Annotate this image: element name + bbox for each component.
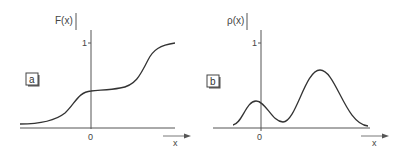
figure: F(x) 1 0 x a ρ(x) 1 0 x b [0, 0, 406, 150]
panel-a-label: a [29, 74, 35, 85]
panel-a-xtick-label: 0 [88, 132, 93, 142]
panel-b-xlabel: x [372, 138, 377, 148]
panel-a-ylabel: F(x) [55, 15, 73, 26]
panel-b-density-curve [233, 70, 368, 126]
panel-a-cdf-curve [20, 43, 175, 124]
panel-b-ylabel: ρ(x) [227, 15, 244, 26]
panel-b-xtick-label: 0 [257, 132, 262, 142]
panel-b-x-arrow-icon [382, 134, 389, 139]
panel-b-ytick-label: 1 [252, 38, 257, 48]
panel-a-ytick-label: 1 [82, 38, 87, 48]
panel-a-xlabel: x [173, 138, 178, 148]
panel-a: F(x) 1 0 x a [20, 13, 191, 148]
panel-a-x-arrow-icon [184, 134, 191, 139]
panel-b-label: b [210, 76, 216, 87]
panel-b: ρ(x) 1 0 x b [207, 13, 389, 148]
